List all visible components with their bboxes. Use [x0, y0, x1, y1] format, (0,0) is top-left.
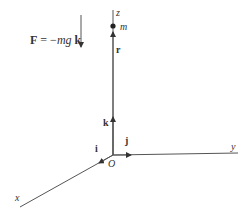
z-axis-label: z	[115, 7, 120, 18]
x-axis-label: x	[14, 192, 20, 203]
i-vector-label: i	[95, 143, 98, 154]
origin-label: O	[108, 158, 115, 169]
coordinate-diagram: F = −mg k z m r k y j x i O	[0, 0, 251, 218]
y-axis-label: y	[230, 141, 236, 152]
r-vector-label: r	[116, 44, 121, 55]
j-vector-label: j	[124, 135, 128, 146]
mass-label: m	[120, 21, 127, 32]
mass-point	[110, 23, 115, 28]
y-axis	[113, 153, 238, 155]
force-label: F = −mg k	[30, 33, 82, 47]
k-vector-label: k	[103, 117, 109, 128]
